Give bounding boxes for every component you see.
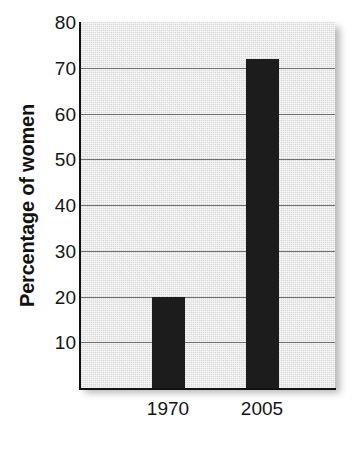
bar-2005: [246, 59, 279, 388]
gridline: [80, 342, 335, 343]
y-axis-tick-label: 40: [40, 196, 76, 215]
y-axis-tick-label: 70: [40, 58, 76, 77]
gridline: [80, 68, 335, 69]
x-axis-tick-labels: 19702005: [80, 398, 335, 430]
y-axis-tick-label: 80: [40, 13, 76, 32]
x-axis-tick-label-1970: 1970: [147, 398, 189, 421]
x-axis-line: [79, 388, 336, 390]
y-axis-title: Percentage of women: [10, 22, 44, 388]
y-axis-title-text: Percentage of women: [16, 104, 39, 307]
x-axis-tick-label-2005: 2005: [241, 398, 283, 421]
gridline: [80, 251, 335, 252]
gridline: [80, 159, 335, 160]
y-axis-tick-label: 30: [40, 241, 76, 260]
gridline: [80, 114, 335, 115]
y-axis-tick-label: 20: [40, 287, 76, 306]
gridline: [80, 205, 335, 206]
gridline: [80, 297, 335, 298]
plot-area: [80, 22, 335, 388]
y-axis-tick-labels: 1020304050607080: [40, 22, 76, 388]
y-axis-tick-label: 60: [40, 104, 76, 123]
bar-chart-figure: Percentage of women 1020304050607080 197…: [0, 0, 361, 449]
bar-1970: [152, 297, 185, 389]
y-axis-line: [79, 22, 81, 389]
y-axis-tick-label: 10: [40, 333, 76, 352]
y-axis-tick-label: 50: [40, 150, 76, 169]
